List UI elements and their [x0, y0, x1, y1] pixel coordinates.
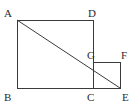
diagonal-a-to-e — [17, 20, 120, 88]
vertex-label-c: C — [87, 92, 94, 103]
small-square-gfec — [93, 62, 120, 88]
vertex-label-e: E — [122, 92, 129, 103]
vertex-label-g: G — [87, 50, 95, 61]
vertex-label-d: D — [88, 8, 96, 19]
vertex-label-f: F — [121, 50, 127, 61]
figure-canvas — [0, 0, 140, 110]
vertex-label-b: B — [4, 92, 11, 103]
large-square-abcd — [17, 20, 93, 88]
vertex-label-a: A — [4, 8, 12, 19]
geometry-figure: A D B C G F E — [0, 0, 140, 110]
